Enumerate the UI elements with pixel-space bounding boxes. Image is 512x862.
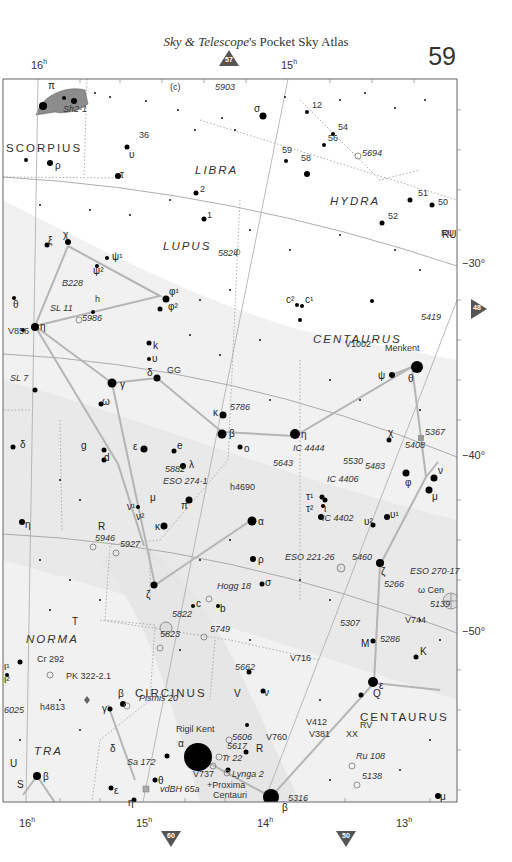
nav-page-bottom-right[interactable]: 50 (335, 830, 357, 848)
svg-text:φ: φ (405, 477, 412, 488)
object-label: 36 (139, 130, 149, 140)
svg-text:b: b (220, 603, 226, 614)
svg-text:c: c (196, 598, 201, 609)
ra-label-bottom-13h: 13h (396, 816, 412, 829)
atlas-title-rest: 's Pocket Sky Atlas (249, 34, 349, 49)
constellation-label: TRA (34, 745, 63, 757)
svg-text:π: π (181, 500, 188, 511)
object-label: SL 7 (10, 373, 28, 383)
object-label: XX (346, 729, 358, 739)
dec-label-minus50: −50° (462, 625, 485, 637)
object-label: 2 (200, 184, 205, 194)
nav-page-top[interactable]: 57 (218, 49, 240, 67)
object-label: 5824 (218, 248, 238, 258)
svg-text:χ: χ (63, 229, 69, 240)
object-label: 5460 (352, 552, 372, 562)
svg-text:c²: c² (286, 294, 295, 305)
object-label: 50 (438, 197, 448, 207)
object-label: SL 11 (50, 303, 73, 313)
svg-text:ν: ν (438, 465, 443, 476)
ra-label-bottom-15h: 15h (136, 816, 152, 829)
object-label: 5367 (425, 427, 445, 437)
constellation-label: SCORPIUS (6, 142, 82, 154)
object-label: IC 4406 (327, 474, 359, 484)
object-label: 59 (282, 145, 292, 155)
svg-text:ι¹: ι¹ (4, 661, 10, 672)
svg-text:R: R (98, 521, 105, 532)
nav-page-right[interactable]: 48 (470, 298, 488, 320)
svg-text:τ²: τ² (306, 503, 314, 514)
svg-text:M: M (361, 638, 369, 649)
svg-text:S: S (17, 779, 24, 790)
object-label: V381 (309, 729, 330, 739)
svg-text:τ¹: τ¹ (306, 491, 314, 502)
svg-text:η: η (40, 321, 46, 332)
object-label: ESO 221-26 (285, 552, 335, 562)
object-label: 5662 (235, 662, 255, 672)
svg-text:V: V (234, 688, 241, 699)
svg-text:ζ: ζ (146, 589, 151, 601)
svg-text:α: α (178, 738, 184, 749)
dec-label-minus40: −40° (462, 449, 485, 461)
object-label: 5408 (405, 440, 425, 450)
svg-text:θ: θ (408, 373, 414, 384)
object-label: Sa 172 (127, 757, 156, 767)
svg-text:χ: χ (388, 427, 394, 438)
object-label: 5927 (120, 539, 140, 549)
atlas-title-italic: Sky & Telescope (164, 34, 249, 49)
svg-text:λ: λ (189, 459, 194, 470)
object-label: 5286 (380, 634, 400, 644)
object-label: 56 (328, 133, 338, 143)
ra-label-top-15h: 15h (281, 58, 297, 71)
object-label: V737 (193, 769, 214, 779)
svg-text:K: K (420, 646, 427, 657)
nav-page-bottom-left[interactable]: 60 (160, 830, 182, 848)
object-label: IC 4402 (322, 513, 354, 523)
object-label: Centauri (213, 790, 247, 800)
object-label: RV (360, 720, 372, 730)
object-label: 5138 (362, 771, 382, 781)
svg-text:β: β (282, 802, 288, 813)
object-label: Pismis 20 (139, 693, 178, 703)
object-label: 5822 (172, 609, 192, 619)
object-label: (c) (170, 82, 181, 92)
constellation-label: HYDRA (330, 195, 380, 207)
svg-text:υ²: υ² (364, 516, 373, 527)
svg-text:ψ¹: ψ¹ (112, 251, 123, 262)
svg-text:τ: τ (120, 169, 124, 180)
svg-text:g: g (81, 440, 87, 451)
constellation-label: CENTAURUS (360, 711, 449, 723)
object-label: 5786 (230, 402, 250, 412)
object-label: 5316 (288, 793, 308, 803)
svg-text:Q: Q (373, 688, 381, 699)
object-label: 5617 (227, 741, 247, 751)
object-label: 51 (418, 188, 428, 198)
object-label: 5882 (165, 464, 185, 474)
svg-text:ι²: ι² (4, 674, 10, 685)
object-label: h4813 (40, 702, 65, 712)
object-label: 6025 (4, 705, 24, 715)
object-label: 5307 (340, 618, 360, 628)
svg-text:μ: μ (432, 491, 438, 502)
object-label: +Proxima (207, 780, 245, 790)
svg-text:π: π (48, 80, 55, 91)
svg-text:ξ: ξ (48, 235, 53, 247)
svg-text:e: e (177, 440, 183, 451)
svg-text:ε: ε (133, 441, 138, 452)
object-label: GG (167, 365, 181, 375)
object-label: V1002 (345, 339, 371, 349)
svg-text:δ: δ (20, 439, 26, 450)
object-label: V744 (405, 615, 426, 625)
object-label: 5903 (215, 82, 235, 92)
object-label: h (95, 294, 100, 304)
object-label: ESO 274-1 (163, 476, 208, 486)
object-label: 54 (338, 122, 348, 132)
ra-label-bottom-16h: 16h (19, 816, 35, 829)
svg-text:ρ: ρ (55, 160, 61, 171)
object-label: 5986 (82, 313, 102, 323)
svg-text:η: η (128, 797, 134, 808)
object-label: V412 (306, 717, 327, 727)
object-label: V760 (266, 732, 287, 742)
svg-text:υ: υ (129, 149, 134, 160)
object-label: 5823 (160, 629, 180, 639)
